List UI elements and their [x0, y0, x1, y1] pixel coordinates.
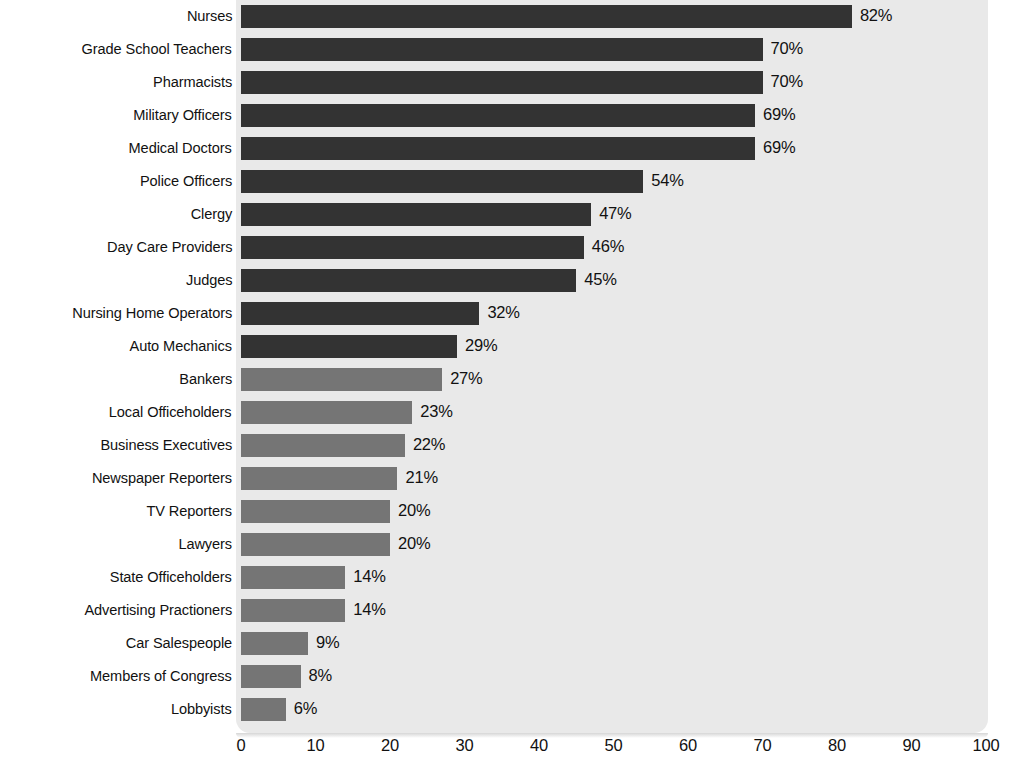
bar — [241, 566, 345, 589]
bar-row: Business Executives22% — [0, 429, 1014, 462]
category-label: Auto Mechanics — [130, 330, 232, 363]
bar — [241, 401, 412, 424]
bar-value-label: 69% — [763, 135, 795, 162]
bar-value-label: 20% — [398, 531, 430, 558]
bar-row: Military Officers69% — [0, 99, 1014, 132]
footnote-clipped — [8, 770, 1008, 780]
bar-value-label: 70% — [771, 36, 803, 63]
bar-value-label: 70% — [771, 69, 803, 96]
bar — [241, 203, 591, 226]
bar-row: Pharmacists70% — [0, 66, 1014, 99]
bar-value-label: 69% — [763, 102, 795, 129]
bar-track — [241, 137, 986, 160]
category-label: State Officeholders — [110, 561, 232, 594]
bar-track — [241, 533, 986, 556]
bar-track — [241, 698, 986, 721]
category-label: Members of Congress — [90, 660, 232, 693]
category-label: Judges — [186, 264, 232, 297]
x-axis-tick-label: 40 — [530, 736, 548, 755]
x-axis-tick-label: 80 — [828, 736, 846, 755]
bar-row: Car Salespeople9% — [0, 627, 1014, 660]
bar — [241, 170, 643, 193]
category-label: Business Executives — [100, 429, 232, 462]
bar — [241, 434, 405, 457]
bar — [241, 500, 390, 523]
bar-value-label: 82% — [860, 3, 892, 30]
bar-track — [241, 335, 986, 358]
bar-value-label: 32% — [487, 300, 519, 327]
bar-row: State Officeholders14% — [0, 561, 1014, 594]
bar-value-label: 46% — [592, 234, 624, 261]
bar-value-label: 29% — [465, 333, 497, 360]
category-label: Military Officers — [133, 99, 232, 132]
category-label: Police Officers — [140, 165, 232, 198]
x-axis-tick-label: 70 — [754, 736, 772, 755]
bar — [241, 137, 755, 160]
bar-value-label: 6% — [294, 696, 317, 723]
bar-chart: Nurses82%Grade School Teachers70%Pharmac… — [0, 0, 1014, 780]
bar — [241, 335, 457, 358]
x-axis-tick-label: 60 — [679, 736, 697, 755]
bar — [241, 632, 308, 655]
bar-row: Local Officeholders23% — [0, 396, 1014, 429]
category-label: Bankers — [179, 363, 232, 396]
bar-row: Medical Doctors69% — [0, 132, 1014, 165]
bar-value-label: 22% — [413, 432, 445, 459]
bar-track — [241, 302, 986, 325]
bar-track — [241, 170, 986, 193]
bar-row: Clergy47% — [0, 198, 1014, 231]
bar-track — [241, 434, 986, 457]
category-label: Newspaper Reporters — [92, 462, 232, 495]
bar-value-label: 47% — [599, 201, 631, 228]
bar-track — [241, 104, 986, 127]
bar-value-label: 14% — [353, 564, 385, 591]
bar-value-label: 45% — [584, 267, 616, 294]
bar-value-label: 14% — [353, 597, 385, 624]
bar — [241, 5, 852, 28]
bar-row: Nursing Home Operators32% — [0, 297, 1014, 330]
x-axis-tick-label: 20 — [381, 736, 399, 755]
bar-track — [241, 71, 986, 94]
bar — [241, 698, 286, 721]
category-label: Lobbyists — [171, 693, 232, 726]
bar-row: Bankers27% — [0, 363, 1014, 396]
bar-track — [241, 500, 986, 523]
bar-row: Members of Congress8% — [0, 660, 1014, 693]
bar-row: Grade School Teachers70% — [0, 33, 1014, 66]
bar — [241, 599, 345, 622]
bar — [241, 467, 397, 490]
bar — [241, 302, 479, 325]
x-axis-tick-label: 100 — [973, 736, 1000, 755]
bar-value-label: 54% — [651, 168, 683, 195]
category-label: Medical Doctors — [129, 132, 232, 165]
category-label: Local Officeholders — [109, 396, 232, 429]
bar-track — [241, 665, 986, 688]
bar-value-label: 20% — [398, 498, 430, 525]
bar-row: Judges45% — [0, 264, 1014, 297]
bar-value-label: 9% — [316, 630, 339, 657]
bar-row: Lawyers20% — [0, 528, 1014, 561]
bar-value-label: 23% — [420, 399, 452, 426]
bar-row: Advertising Practioners14% — [0, 594, 1014, 627]
category-label: Lawyers — [178, 528, 232, 561]
x-axis-tick-label: 50 — [605, 736, 623, 755]
x-axis: 0102030405060708090100 — [0, 736, 1014, 766]
category-label: Day Care Providers — [107, 231, 232, 264]
bar-row: Lobbyists6% — [0, 693, 1014, 726]
x-axis-tick-label: 0 — [237, 736, 246, 755]
bar-row: Police Officers54% — [0, 165, 1014, 198]
category-label: Clergy — [190, 198, 232, 231]
bar — [241, 104, 755, 127]
bar-row: TV Reporters20% — [0, 495, 1014, 528]
bar-track — [241, 368, 986, 391]
bar-value-label: 8% — [309, 663, 332, 690]
bar-track — [241, 401, 986, 424]
x-axis-tick-label: 10 — [307, 736, 325, 755]
bar-rows-container: Nurses82%Grade School Teachers70%Pharmac… — [0, 0, 1014, 726]
bar-value-label: 27% — [450, 366, 482, 393]
category-label: Pharmacists — [153, 66, 232, 99]
category-label: Grade School Teachers — [82, 33, 232, 66]
bar-row: Nurses82% — [0, 0, 1014, 33]
category-label: Car Salespeople — [126, 627, 232, 660]
bar — [241, 665, 301, 688]
